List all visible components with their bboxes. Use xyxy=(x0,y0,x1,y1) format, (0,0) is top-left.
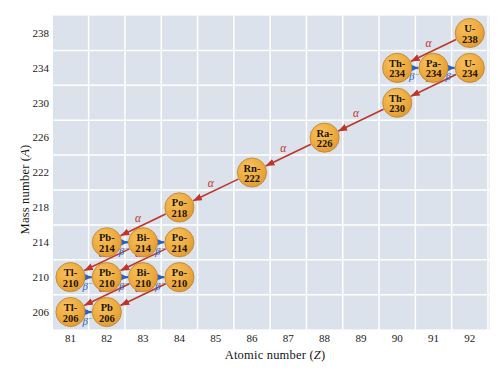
alpha-decay-label: α xyxy=(425,37,432,49)
x-tick-label: 89 xyxy=(355,332,367,344)
nuclide-label-symbol: Bi- xyxy=(136,232,150,243)
nuclide-label-symbol: Bi- xyxy=(136,267,150,278)
nuclide-label-mass: 210 xyxy=(135,278,151,289)
nuclide-label-mass: 206 xyxy=(99,313,115,324)
nuclide-Bi-210: Bi-210 xyxy=(129,263,158,292)
nuclide-label-symbol: U- xyxy=(464,58,476,69)
alpha-decay-label: α xyxy=(353,107,360,119)
nuclide-label-symbol: Pa- xyxy=(426,58,442,69)
nuclide-Rn-222: Rn-222 xyxy=(237,158,266,187)
nuclide-label-mass: 210 xyxy=(63,278,79,289)
x-axis-title-suffix: ) xyxy=(321,348,325,362)
x-tick-label: 91 xyxy=(428,332,439,344)
y-tick-label: 218 xyxy=(33,201,50,213)
y-tick-label: 214 xyxy=(33,236,50,248)
nuclide-Pb-210: Pb-210 xyxy=(92,263,121,292)
y-tick-label: 210 xyxy=(33,271,50,283)
x-tick-label: 85 xyxy=(210,332,222,344)
nuclide-label-mass: 234 xyxy=(426,68,443,79)
alpha-decay-label: α xyxy=(208,177,215,189)
nuclide-Th-234: Th-234 xyxy=(383,53,412,82)
nuclide-label-mass: 206 xyxy=(63,313,79,324)
nuclide-label-symbol: Th- xyxy=(389,58,406,69)
x-tick-label: 87 xyxy=(283,332,295,344)
nuclide-label-symbol: Pb- xyxy=(99,232,115,243)
nuclide-label-mass: 210 xyxy=(172,278,188,289)
y-axis-title: Mass number (A) xyxy=(18,105,35,275)
nuclide-Po-218: Po-218 xyxy=(165,193,194,222)
nuclide-Pb-214: Pb-214 xyxy=(92,228,121,257)
x-tick-label: 83 xyxy=(138,332,150,344)
nuclide-label-mass: 238 xyxy=(462,34,478,45)
y-tick-label: 222 xyxy=(33,166,50,178)
x-axis-title-variable: Z xyxy=(314,348,321,362)
nuclide-Po-214: Po-214 xyxy=(165,228,194,257)
y-tick-label: 234 xyxy=(33,62,50,74)
nuclide-label-symbol: Pb- xyxy=(99,267,115,278)
nuclide-label-mass: 234 xyxy=(389,68,406,79)
nuclide-Pa-234: Pa-234 xyxy=(419,53,448,82)
x-tick-label: 84 xyxy=(174,332,186,344)
y-tick-label: 230 xyxy=(33,97,50,109)
x-tick-label: 82 xyxy=(101,332,112,344)
nuclide-label-mass: 226 xyxy=(317,138,333,149)
nuclide-label-mass: 234 xyxy=(462,68,479,79)
nuclide-label-mass: 214 xyxy=(99,243,116,254)
nuclide-Tl-206: Tl-206 xyxy=(56,297,85,326)
nuclide-label-symbol: Tl- xyxy=(64,267,78,278)
nuclide-Pb-206: Pb206 xyxy=(92,297,121,326)
decay-series-chart: αβ−β−αααααβ−β−ααβ−β−β−ααβ−U-238Th-234Pa-… xyxy=(0,0,502,378)
nuclide-label-symbol: Po- xyxy=(172,197,188,208)
nuclide-U-234: U-234 xyxy=(455,53,484,82)
x-tick-label: 81 xyxy=(65,332,76,344)
decay-series-figure: αβ−β−αααααβ−β−ααβ−β−β−ααβ−U-238Th-234Pa-… xyxy=(0,0,502,378)
y-tick-label: 238 xyxy=(33,27,50,39)
nuclide-label-mass: 214 xyxy=(135,243,152,254)
nuclide-label-mass: 222 xyxy=(244,173,260,184)
nuclide-label-symbol: Po- xyxy=(172,267,188,278)
y-axis-title-suffix: ) xyxy=(18,145,32,149)
nuclide-label-symbol: Po- xyxy=(172,232,188,243)
alpha-decay-label: α xyxy=(135,212,142,224)
y-tick-label: 226 xyxy=(33,131,50,143)
y-axis-title-text: Mass number ( xyxy=(18,157,32,235)
nuclide-label-symbol: Th- xyxy=(389,93,406,104)
nuclide-Po-210: Po-210 xyxy=(165,263,194,292)
nuclide-label-symbol: Tl- xyxy=(64,302,78,313)
nuclide-label-mass: 218 xyxy=(172,208,188,219)
nuclide-label-mass: 230 xyxy=(389,103,405,114)
x-tick-label: 90 xyxy=(392,332,404,344)
x-tick-label: 88 xyxy=(319,332,331,344)
x-tick-label: 92 xyxy=(464,332,475,344)
nuclide-label-symbol: U- xyxy=(464,23,476,34)
nuclide-label-symbol: Ra- xyxy=(316,128,333,139)
alpha-decay-label: α xyxy=(280,142,287,154)
nuclide-label-mass: 210 xyxy=(99,278,115,289)
y-tick-label: 206 xyxy=(33,306,50,318)
y-axis-title-variable: A xyxy=(18,149,32,157)
nuclide-label-symbol: Pb xyxy=(101,302,113,313)
x-tick-label: 86 xyxy=(247,332,259,344)
nuclide-Th-230: Th-230 xyxy=(383,88,412,117)
nuclide-Bi-214: Bi-214 xyxy=(129,228,158,257)
nuclide-label-symbol: Rn- xyxy=(244,163,261,174)
x-axis-title-text: Atomic number ( xyxy=(225,348,314,362)
nuclide-Tl-210: Tl-210 xyxy=(56,263,85,292)
nuclide-U-238: U-238 xyxy=(455,18,484,47)
x-axis-title: Atomic number (Z) xyxy=(55,348,495,363)
nuclide-Ra-226: Ra-226 xyxy=(310,123,339,152)
nuclide-label-mass: 214 xyxy=(172,243,189,254)
